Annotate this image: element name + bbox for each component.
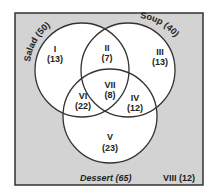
region-iv-id: IV: [131, 93, 140, 103]
region-iii-count: (13): [152, 57, 168, 67]
region-vii-id: VII: [104, 80, 115, 90]
region-i-count: (13): [47, 54, 63, 64]
region-v-count: (23): [102, 143, 118, 153]
venn-diagram: Salad (50) Soup (40) Dessert (65) VIII (…: [0, 0, 213, 196]
region-viii-label: VIII (12): [163, 173, 195, 183]
dessert-label: Dessert (65): [80, 173, 132, 183]
region-ii-count: (7): [102, 53, 113, 63]
region-vii-count: (8): [105, 90, 116, 100]
region-vi-count: (22): [75, 101, 91, 111]
region-iv-count: (12): [127, 103, 143, 113]
region-iii-id: III: [156, 47, 164, 57]
region-ii-id: II: [104, 43, 109, 53]
region-i-id: I: [54, 44, 57, 54]
region-v-id: V: [107, 132, 113, 142]
region-vi-id: VI: [79, 91, 88, 101]
